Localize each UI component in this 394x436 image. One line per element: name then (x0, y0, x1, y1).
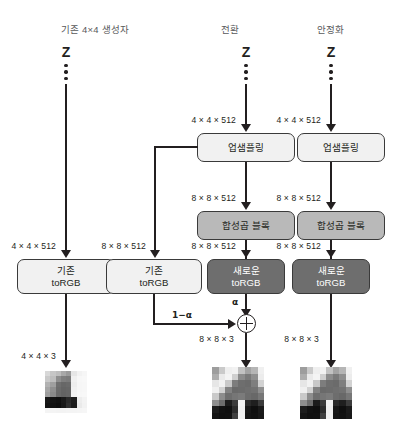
block-label-line1: 업샘플링 (228, 142, 264, 154)
label-alpha: α (232, 297, 238, 307)
block-label-line2: toRGB (232, 277, 261, 289)
edge-right-latent-to-upsample (330, 84, 332, 126)
block-label-line2: toRGB (140, 277, 169, 289)
arrowhead-mid-to-conv (241, 202, 251, 210)
shape-mid-8x8x3: 8 × 8 × 3 (180, 334, 234, 344)
arrowhead-left-to-rgb (61, 250, 71, 258)
diagram-canvas: 기존 4×4 생성자 전환 안정화 Z Z Z 4 × 4 × 512 기존 t… (0, 0, 394, 436)
arrowhead-right-to-conv (326, 202, 336, 210)
output-image-left (45, 371, 87, 413)
arrowhead-mid-to-upsample (241, 124, 251, 132)
shape-mid-4x4x512: 4 × 4 × 512 (178, 115, 236, 125)
arrowhead-right-to-newrgb (326, 250, 336, 258)
shape-right-8x8x512-b: 8 × 8 × 512 (263, 241, 321, 251)
block-label-line2: toRGB (317, 277, 346, 289)
block-label-line1: 새로운 (233, 265, 260, 277)
edge-mid-oldrgb-down (153, 294, 155, 324)
shape-right-8x8x512-a: 8 × 8 × 512 (263, 193, 321, 203)
output-image-right (300, 367, 352, 419)
latent-label-transition: Z (231, 44, 261, 60)
output-image-middle (212, 367, 264, 419)
shape-right-8x8x3: 8 × 8 × 3 (265, 334, 319, 344)
block-label-line1: 업샘플링 (323, 142, 359, 154)
shape-left-4x4x3: 4 × 4 × 3 (2, 351, 56, 361)
edge-mid-branch-vertical (154, 146, 156, 252)
block-upsample-mid[interactable]: 업샘플링 (197, 133, 295, 162)
shape-mid-8x8x512-b: 8 × 8 × 512 (178, 241, 236, 251)
block-upsample-right[interactable]: 업샘플링 (297, 133, 385, 162)
block-label-line1: 합성곱 블록 (222, 220, 270, 232)
block-label-line1: 기존 (145, 265, 163, 277)
arrowhead-mid-oneminusalpha-to-sum (228, 319, 236, 329)
edge-right-upsample-to-conv (330, 162, 332, 204)
edge-left-latent-to-rgb (65, 84, 67, 252)
edge-mid-oldrgb-to-sum (153, 323, 234, 325)
column-header-stabilization: 안정화 (288, 22, 373, 36)
edge-mid-upsample-to-conv (245, 162, 247, 204)
edge-mid-sum-to-output (245, 333, 247, 362)
latent-label-existing: Z (51, 44, 81, 60)
blend-sum-node (237, 314, 256, 333)
block-conv-right[interactable]: 합성곱 블록 (297, 211, 385, 240)
shape-left-4x4x512: 4 × 4 × 512 (0, 241, 56, 251)
block-old-torgb-left[interactable]: 기존 toRGB (17, 259, 115, 294)
output-pixel (82, 408, 87, 413)
arrowhead-mid-branch-to-rgb (150, 250, 160, 258)
arrowhead-right-to-upsample (326, 124, 336, 132)
edge-mid-latent-to-upsample (245, 84, 247, 126)
arrowhead-left-to-output (61, 360, 71, 368)
shape-mid-8x8x512-c: 8 × 8 × 512 (88, 241, 146, 251)
column-header-transition: 전환 (188, 22, 273, 36)
block-old-torgb-mid[interactable]: 기존 toRGB (106, 259, 202, 294)
block-new-torgb-right[interactable]: 새로운 toRGB (292, 259, 370, 294)
latent-dots-stabilization (326, 64, 336, 83)
edge-mid-branch-horizontal (154, 146, 198, 148)
output-pixel (258, 413, 265, 420)
column-header-existing: 기존 4×4 생성자 (15, 22, 175, 36)
block-new-torgb-mid[interactable]: 새로운 toRGB (207, 259, 285, 294)
latent-dots-transition (241, 64, 251, 83)
block-label-line1: 새로운 (318, 265, 345, 277)
latent-label-stabilization: Z (316, 44, 346, 60)
arrowhead-mid-to-newrgb (241, 250, 251, 258)
edge-right-newrgb-to-output (330, 294, 332, 362)
latent-dots-existing (61, 64, 71, 83)
output-pixel (346, 413, 353, 420)
block-label-line1: 기존 (57, 265, 75, 277)
edge-left-rgb-to-output (65, 294, 67, 362)
shape-mid-8x8x512-a: 8 × 8 × 512 (178, 193, 236, 203)
block-conv-mid[interactable]: 합성곱 블록 (197, 211, 295, 240)
shape-right-4x4x512: 4 × 4 × 512 (263, 115, 321, 125)
label-one-minus-alpha: 1−α (172, 310, 192, 320)
block-label-line2: toRGB (52, 277, 81, 289)
block-label-line1: 합성곱 블록 (317, 220, 365, 232)
